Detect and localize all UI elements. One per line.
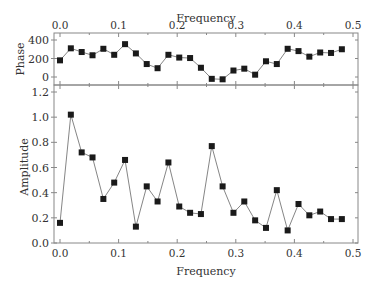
data-point-marker	[274, 61, 280, 67]
data-point-marker	[306, 212, 312, 218]
phase-panel: 0.00.10.20.30.40.50200400	[28, 19, 361, 85]
x-tick-label: 0.4	[286, 19, 303, 31]
data-point-marker	[241, 198, 247, 204]
data-point-marker	[296, 201, 302, 207]
data-point-marker	[68, 112, 74, 118]
bottom-x-axis-label: Frequency	[176, 265, 236, 278]
frequency-chart: 0.00.10.20.30.40.50200400 0.00.10.20.30.…	[0, 0, 379, 289]
data-point-marker	[209, 76, 215, 82]
data-point-marker	[90, 52, 96, 58]
bottom-y-axis-label: Amplitude	[18, 138, 31, 197]
data-point-marker	[122, 41, 128, 47]
data-point-marker	[111, 180, 117, 186]
data-point-marker	[165, 52, 171, 58]
data-point-marker	[187, 210, 193, 216]
y-tick-label: 200	[28, 53, 49, 66]
y-tick-label: 0.0	[32, 237, 50, 250]
y-tick-label: 0.2	[32, 212, 50, 225]
data-point-marker	[144, 61, 150, 67]
data-point-marker	[79, 49, 85, 55]
data-point-marker	[317, 49, 323, 55]
y-tick-label: 0	[42, 71, 49, 84]
data-point-marker	[339, 46, 345, 52]
data-point-marker	[176, 55, 182, 61]
data-point-marker	[100, 196, 106, 202]
data-point-marker	[209, 143, 215, 149]
data-point-marker	[100, 46, 106, 52]
data-point-marker	[263, 225, 269, 231]
data-point-marker	[144, 183, 150, 189]
data-point-marker	[220, 76, 226, 82]
y-tick-label: 0.6	[32, 162, 50, 175]
data-point-marker	[122, 157, 128, 163]
data-point-marker	[155, 198, 161, 204]
plot-frame	[54, 85, 358, 243]
data-point-marker	[220, 183, 226, 189]
data-point-marker	[263, 58, 269, 64]
data-point-marker	[274, 187, 280, 193]
x-tick-label: 0.2	[169, 247, 186, 259]
data-point-marker	[339, 216, 345, 222]
data-point-marker	[198, 211, 204, 217]
x-tick-label: 0.5	[345, 247, 362, 259]
y-tick-label: 1.2	[32, 86, 50, 99]
data-point-marker	[57, 220, 63, 226]
x-tick-label: 0.1	[110, 247, 127, 259]
y-tick-label: 400	[28, 34, 49, 47]
amplitude-panel: 0.00.10.20.30.40.50.00.20.40.60.81.01.2	[32, 85, 362, 259]
data-point-marker	[230, 68, 236, 74]
data-point-marker	[296, 48, 302, 54]
x-tick-label: 0.5	[345, 19, 362, 31]
data-point-marker	[230, 210, 236, 216]
data-point-marker	[241, 66, 247, 72]
data-point-marker	[187, 55, 193, 61]
plot-frame	[54, 33, 358, 85]
y-tick-label: 0.4	[32, 187, 50, 200]
data-point-marker	[328, 216, 334, 222]
data-point-marker	[252, 217, 258, 223]
data-point-marker	[285, 46, 291, 52]
x-tick-label: 0.1	[110, 19, 127, 31]
x-tick-label: 0.4	[286, 247, 303, 259]
data-point-marker	[328, 50, 334, 56]
data-point-marker	[252, 72, 258, 78]
data-point-marker	[133, 50, 139, 56]
data-point-marker	[306, 54, 312, 60]
data-point-marker	[68, 45, 74, 51]
y-tick-label: 0.8	[32, 136, 50, 149]
data-point-marker	[198, 65, 204, 71]
data-point-marker	[317, 209, 323, 215]
x-tick-label: 0.0	[52, 247, 69, 259]
data-point-marker	[90, 154, 96, 160]
data-point-marker	[176, 204, 182, 210]
top-y-axis-label: Phase	[14, 42, 27, 75]
data-point-marker	[155, 65, 161, 71]
top-x-axis-label: Frequency	[176, 12, 236, 25]
x-tick-label: 0.3	[227, 247, 244, 259]
data-point-marker	[111, 52, 117, 58]
data-point-marker	[79, 149, 85, 155]
x-tick-label: 0.0	[52, 19, 69, 31]
y-tick-label: 1.0	[32, 111, 50, 124]
data-point-marker	[57, 57, 63, 63]
data-point-marker	[133, 224, 139, 230]
data-point-marker	[165, 159, 171, 165]
data-point-marker	[285, 227, 291, 233]
